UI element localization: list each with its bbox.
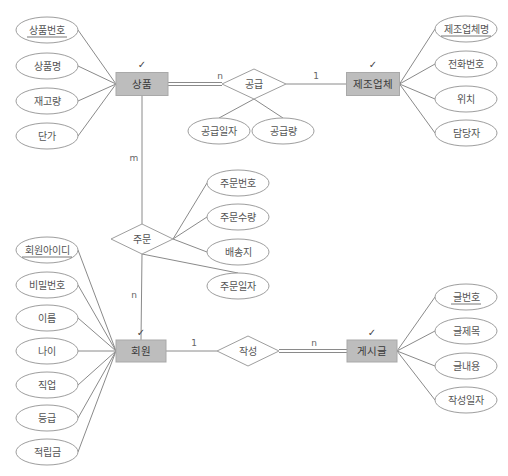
check-mark-icon: ✓ [138, 59, 146, 70]
attribute-label: 비밀번호 [29, 280, 65, 291]
attribute-connector [254, 99, 283, 118]
attribute-label: 위치 [457, 93, 475, 105]
attribute-label: 상품번호 [29, 25, 65, 36]
attribute-label: 상품명 [34, 61, 61, 72]
relationship-write[interactable]: 작성 [217, 336, 279, 366]
check-mark-icon: ✓ [369, 59, 377, 70]
attribute-적립금[interactable]: 적립금 [16, 439, 78, 465]
attribute-주문번호[interactable]: 주문번호 [207, 170, 269, 196]
relationship-label: 작성 [239, 346, 257, 357]
attribute-비밀번호[interactable]: 비밀번호 [16, 272, 78, 298]
attribute-단가[interactable]: 단가 [16, 123, 78, 149]
attribute-label: 직업 [38, 379, 56, 391]
attribute-connector [78, 285, 116, 351]
attribute-공급량[interactable]: 공급량 [252, 118, 314, 144]
entity-label: 회원 [131, 345, 151, 357]
entity-label: 상품 [132, 78, 152, 90]
cardinality-label: n [217, 71, 223, 81]
check-mark-icon: ✓ [137, 327, 145, 338]
attribute-label: 주문수량 [220, 212, 256, 223]
entity-label: 제조업체 [353, 78, 393, 90]
attribute-글제목[interactable]: 글제목 [435, 318, 497, 344]
cardinality-label: n [131, 290, 137, 300]
attribute-제조업체명[interactable]: 제조업체명 [435, 16, 497, 42]
attribute-작성일자[interactable]: 작성일자 [435, 387, 497, 413]
attribute-label: 단가 [38, 131, 56, 142]
relationship-label: 주문 [133, 234, 151, 245]
relationship-label: 공급 [245, 79, 263, 90]
diagram-shapes: 상품✓상품번호상품명재고량단가제조업체✓제조업체명전화번호위치담당자회원✓회원아… [16, 16, 497, 465]
attribute-label: 글번호 [453, 292, 480, 303]
attribute-label: 공급일자 [201, 126, 237, 137]
attribute-label: 재고량 [34, 96, 61, 107]
attribute-label: 배송지 [225, 247, 252, 258]
attribute-위치[interactable]: 위치 [435, 86, 497, 112]
attribute-connector [78, 66, 116, 84]
attribute-label: 글제목 [453, 326, 480, 337]
attribute-connector [78, 351, 116, 452]
relationship-supply[interactable]: 공급 [222, 69, 286, 99]
attribute-글번호[interactable]: 글번호 [435, 284, 497, 310]
attribute-connector [78, 351, 116, 418]
attribute-상품명[interactable]: 상품명 [16, 53, 78, 79]
attribute-상품번호[interactable]: 상품번호 [16, 17, 78, 43]
entity-member[interactable]: 회원 [116, 340, 166, 362]
cardinality-label: 1 [313, 71, 319, 81]
attribute-label: 나이 [38, 346, 56, 357]
attribute-connector [173, 217, 207, 239]
attribute-label: 등급 [38, 413, 56, 424]
attribute-label: 이름 [38, 313, 56, 324]
entity-post[interactable]: 게시글 [347, 340, 397, 362]
check-mark-icon: ✓ [368, 327, 376, 338]
attribute-connector [219, 99, 254, 118]
attribute-connector [400, 64, 436, 84]
attribute-주문일자[interactable]: 주문일자 [207, 273, 269, 299]
attribute-connector [397, 331, 435, 351]
attribute-label: 글내용 [453, 361, 480, 372]
attribute-label: 전화번호 [448, 59, 484, 70]
attribute-주문수량[interactable]: 주문수량 [207, 204, 269, 230]
cardinality-label: n [311, 338, 317, 348]
attribute-connector [78, 84, 116, 136]
attribute-공급일자[interactable]: 공급일자 [188, 118, 250, 144]
attribute-등급[interactable]: 등급 [16, 405, 78, 431]
entity-label: 게시글 [357, 345, 387, 357]
attribute-회원아이디[interactable]: 회원아이디 [16, 237, 78, 263]
attribute-connector [78, 250, 116, 351]
cardinality-label: 1 [191, 338, 197, 348]
attribute-글내용[interactable]: 글내용 [435, 353, 497, 379]
attribute-label: 회원아이디 [25, 245, 70, 256]
attribute-label: 공급량 [270, 126, 297, 137]
attribute-connector [78, 351, 116, 385]
attribute-담당자[interactable]: 담당자 [435, 120, 497, 146]
attribute-connector [173, 239, 207, 252]
attribute-label: 적립금 [34, 446, 61, 458]
attribute-직업[interactable]: 직업 [16, 372, 78, 398]
attribute-connector [78, 30, 116, 84]
attribute-label: 작성일자 [448, 395, 484, 406]
attribute-배송지[interactable]: 배송지 [207, 239, 269, 265]
attribute-label: 제조업체명 [444, 23, 489, 35]
er-diagram: 상품✓상품번호상품명재고량단가제조업체✓제조업체명전화번호위치담당자회원✓회원아… [0, 0, 508, 476]
attribute-나이[interactable]: 나이 [16, 338, 78, 364]
attribute-connector [173, 183, 207, 239]
attribute-이름[interactable]: 이름 [16, 305, 78, 331]
entity-product[interactable]: 상품 [116, 73, 168, 96]
attribute-재고량[interactable]: 재고량 [16, 88, 78, 114]
cardinality-label: m [130, 153, 139, 163]
attribute-connector [397, 297, 435, 351]
attribute-connector [400, 29, 436, 84]
attribute-label: 주문번호 [220, 178, 256, 189]
attribute-전화번호[interactable]: 전화번호 [435, 51, 497, 77]
entity-manufacturer[interactable]: 제조업체 [347, 73, 400, 96]
relationship-order[interactable]: 주문 [111, 224, 173, 254]
attribute-label: 주문일자 [220, 281, 256, 292]
attribute-label: 담당자 [453, 128, 480, 139]
